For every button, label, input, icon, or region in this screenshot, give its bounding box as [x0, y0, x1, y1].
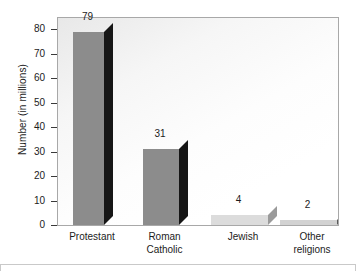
y-tick-label: 70: [5, 49, 45, 59]
y-tick-label: 0: [5, 220, 45, 230]
figure-bottom-rule: [0, 264, 356, 265]
bar-chart-figure: Number (in millions) 01020304050607080 7…: [0, 0, 356, 271]
y-tick-label: 20: [5, 171, 45, 181]
bar-value-label: 31: [130, 128, 190, 139]
category-label-line: religions: [267, 243, 356, 256]
bar-front-face: [143, 149, 179, 225]
y-tick-label: 60: [5, 73, 45, 83]
category-label-line: Other: [267, 230, 356, 243]
bar-value-label: 79: [60, 11, 115, 22]
y-tick-label: 80: [5, 24, 45, 34]
bar-side-face: [104, 23, 113, 225]
bar-side-face: [179, 140, 188, 225]
bar[interactable]: [211, 206, 268, 225]
category-label-line: Catholic: [120, 243, 210, 256]
y-tick-label: 40: [5, 122, 45, 132]
bar-side-face: [337, 211, 339, 225]
category-label-line: Roman: [120, 230, 210, 243]
figure-bottom-rule-left-cap: [0, 264, 1, 271]
y-tick-label: 10: [5, 196, 45, 206]
bar[interactable]: [280, 211, 337, 225]
bar-value-label: 2: [267, 199, 348, 210]
y-tick-label: 50: [5, 98, 45, 108]
category-label: RomanCatholic: [120, 230, 210, 256]
bar-top-face: [337, 211, 339, 220]
bar[interactable]: [143, 140, 179, 225]
bar-front-face: [73, 32, 104, 225]
bar-front-face: [211, 215, 268, 225]
bar[interactable]: [73, 23, 104, 225]
y-tick-label: 30: [5, 147, 45, 157]
category-label: Otherreligions: [267, 230, 356, 256]
bar-front-face: [280, 220, 337, 225]
